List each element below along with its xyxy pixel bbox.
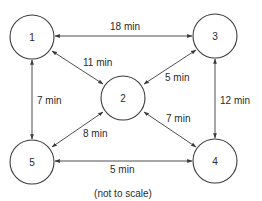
node-1: 1	[10, 15, 54, 59]
edge-label-1-3: 18 min	[110, 21, 140, 32]
edge-label-2-5: 8 min	[83, 128, 107, 139]
edge-label-1-5: 7 min	[37, 95, 61, 106]
edge-label-1-2: 11 min	[83, 57, 112, 68]
network-diagram: 18 min 11 min 5 min 7 min 12 min 8 min 7…	[0, 0, 262, 201]
node-1-label: 1	[29, 32, 35, 43]
node-4-label: 4	[212, 156, 218, 167]
node-5: 5	[10, 140, 54, 184]
node-5-label: 5	[29, 157, 35, 168]
edge-label-2-4: 7 min	[166, 113, 190, 124]
node-3: 3	[193, 14, 237, 58]
edge-label-5-4: 5 min	[110, 164, 134, 175]
node-3-label: 3	[212, 31, 218, 42]
scale-note: (not to scale)	[94, 188, 152, 199]
edge-label-2-3: 5 min	[165, 72, 189, 83]
node-4: 4	[193, 139, 237, 183]
node-2-label: 2	[120, 93, 126, 104]
node-2: 2	[101, 76, 145, 120]
edge-label-3-4: 12 min	[220, 95, 250, 106]
